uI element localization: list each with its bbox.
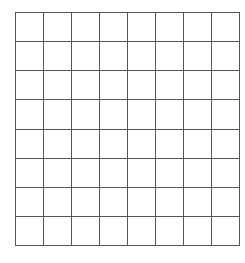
grid-cell[interactable] xyxy=(156,42,184,71)
grid-cell[interactable] xyxy=(212,129,240,158)
grid-cell[interactable] xyxy=(184,158,212,187)
grid-cell[interactable] xyxy=(212,187,240,216)
grid-cell[interactable] xyxy=(72,42,100,71)
grid-cell[interactable] xyxy=(100,216,128,245)
grid-cell[interactable] xyxy=(184,42,212,71)
grid-cell[interactable] xyxy=(16,13,44,42)
grid-figure xyxy=(0,0,245,263)
table-row xyxy=(16,187,240,216)
grid-cell[interactable] xyxy=(212,13,240,42)
grid-cell[interactable] xyxy=(212,216,240,245)
grid-cell[interactable] xyxy=(184,216,212,245)
grid-cell[interactable] xyxy=(44,158,72,187)
grid-cell[interactable] xyxy=(100,71,128,100)
grid-cell[interactable] xyxy=(212,71,240,100)
grid-cell[interactable] xyxy=(44,129,72,158)
grid-cell[interactable] xyxy=(128,216,156,245)
table-row xyxy=(16,100,240,129)
grid-cell[interactable] xyxy=(128,158,156,187)
grid-cell[interactable] xyxy=(100,13,128,42)
table-row xyxy=(16,71,240,100)
grid-cell[interactable] xyxy=(16,158,44,187)
grid-cell[interactable] xyxy=(100,100,128,129)
grid-cell[interactable] xyxy=(100,129,128,158)
grid-cell[interactable] xyxy=(44,100,72,129)
grid-cell[interactable] xyxy=(16,100,44,129)
grid-cell[interactable] xyxy=(16,129,44,158)
grid-cell[interactable] xyxy=(156,13,184,42)
grid-cell[interactable] xyxy=(16,216,44,245)
grid-cell[interactable] xyxy=(156,158,184,187)
grid-cell[interactable] xyxy=(128,100,156,129)
table-row xyxy=(16,216,240,245)
grid-cell[interactable] xyxy=(72,13,100,42)
grid-cell[interactable] xyxy=(184,13,212,42)
grid-cell[interactable] xyxy=(128,129,156,158)
grid-cell[interactable] xyxy=(16,71,44,100)
table-row xyxy=(16,158,240,187)
grid-cell[interactable] xyxy=(44,13,72,42)
grid-cell[interactable] xyxy=(72,158,100,187)
grid-cell[interactable] xyxy=(44,187,72,216)
grid-cell[interactable] xyxy=(128,13,156,42)
grid-cell[interactable] xyxy=(212,158,240,187)
grid-cell[interactable] xyxy=(212,42,240,71)
grid-cell[interactable] xyxy=(128,71,156,100)
grid-cell[interactable] xyxy=(16,187,44,216)
grid-table xyxy=(15,12,240,246)
grid-cell[interactable] xyxy=(128,42,156,71)
grid-cell[interactable] xyxy=(212,100,240,129)
grid-cell[interactable] xyxy=(184,100,212,129)
grid-cell[interactable] xyxy=(72,216,100,245)
grid-cell[interactable] xyxy=(44,216,72,245)
table-row xyxy=(16,129,240,158)
grid-cell[interactable] xyxy=(156,129,184,158)
grid-cell[interactable] xyxy=(72,129,100,158)
grid-cell[interactable] xyxy=(100,42,128,71)
grid-cell[interactable] xyxy=(128,187,156,216)
grid-cell[interactable] xyxy=(156,187,184,216)
grid-cell[interactable] xyxy=(156,71,184,100)
table-row xyxy=(16,13,240,42)
grid-body xyxy=(16,13,240,246)
grid-cell[interactable] xyxy=(72,187,100,216)
grid-cell[interactable] xyxy=(184,71,212,100)
grid-cell[interactable] xyxy=(100,158,128,187)
grid-cell[interactable] xyxy=(184,187,212,216)
grid-cell[interactable] xyxy=(72,100,100,129)
grid-cell[interactable] xyxy=(72,71,100,100)
grid-cell[interactable] xyxy=(156,100,184,129)
grid-cell[interactable] xyxy=(100,187,128,216)
grid-cell[interactable] xyxy=(184,129,212,158)
grid-cell[interactable] xyxy=(156,216,184,245)
grid-cell[interactable] xyxy=(16,42,44,71)
grid-cell[interactable] xyxy=(44,42,72,71)
table-row xyxy=(16,42,240,71)
grid-cell[interactable] xyxy=(44,71,72,100)
